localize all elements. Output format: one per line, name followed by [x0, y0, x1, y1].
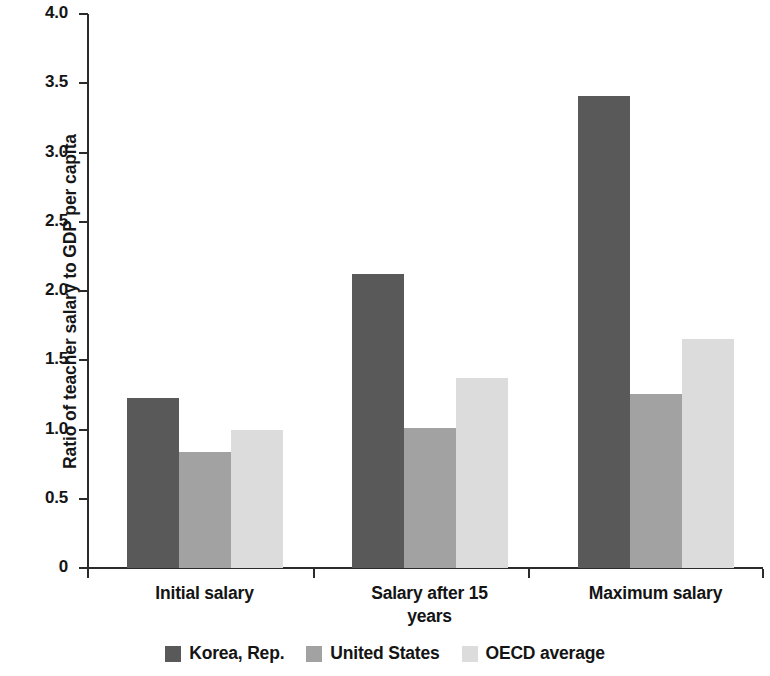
legend-item: Korea, Rep.: [165, 643, 284, 664]
legend-label: OECD average: [486, 643, 605, 664]
y-axis-tick-label: 3.0: [8, 142, 68, 162]
y-axis-tick-label: 2.5: [8, 211, 68, 231]
y-axis-tick-mark: [79, 290, 88, 292]
bar-chart: Ratio of teacher salary to GDP per capit…: [0, 0, 770, 676]
y-axis-tick-mark: [79, 82, 88, 84]
y-axis-tick-mark: [79, 13, 88, 15]
y-axis-tick-mark: [79, 152, 88, 154]
y-axis-tick-label: 3.5: [8, 72, 68, 92]
legend-swatch-icon: [462, 646, 478, 662]
bar: [352, 274, 404, 568]
y-axis-tick-mark: [79, 221, 88, 223]
bar: [578, 96, 630, 568]
x-axis-category-label: Maximum salary: [546, 582, 766, 605]
x-axis-tick-mark: [528, 569, 530, 578]
bar: [231, 430, 283, 569]
legend-item: United States: [306, 643, 439, 664]
legend-item: OECD average: [462, 643, 605, 664]
legend-swatch-icon: [306, 646, 322, 662]
x-axis-category-label: Initial salary: [95, 582, 315, 605]
bar: [630, 394, 682, 569]
bar: [456, 378, 508, 568]
y-axis-tick-mark: [79, 498, 88, 500]
x-axis-tick-mark: [762, 569, 764, 578]
y-axis-tick-label: 0: [8, 557, 68, 577]
legend-swatch-icon: [165, 646, 181, 662]
category-label-line: years: [320, 605, 540, 628]
legend-label: Korea, Rep.: [189, 643, 284, 664]
y-axis-tick-label: 4.0: [8, 3, 68, 23]
y-axis-tick-label: 2.0: [8, 280, 68, 300]
bar: [179, 452, 231, 568]
bar: [127, 398, 179, 568]
y-axis-tick-label: 1.0: [8, 419, 68, 439]
category-label-line: Initial salary: [95, 582, 315, 605]
x-axis-category-label: Salary after 15years: [320, 582, 540, 628]
x-axis-tick-mark: [87, 569, 89, 578]
category-label-line: Maximum salary: [546, 582, 766, 605]
y-axis-tick-label: 0.5: [8, 488, 68, 508]
bar: [682, 339, 734, 568]
bar: [404, 428, 456, 568]
y-axis-tick-mark: [79, 359, 88, 361]
y-axis-tick-mark: [79, 429, 88, 431]
x-axis-tick-mark: [313, 569, 315, 578]
y-axis-tick-label: 1.5: [8, 349, 68, 369]
legend-label: United States: [330, 643, 439, 664]
chart-legend: Korea, Rep.United StatesOECD average: [0, 643, 770, 664]
category-label-line: Salary after 15: [320, 582, 540, 605]
